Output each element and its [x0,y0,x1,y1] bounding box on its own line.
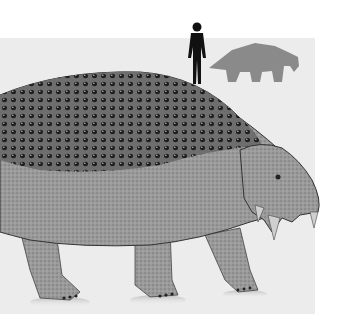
eye [276,175,281,180]
illustration [0,0,348,329]
